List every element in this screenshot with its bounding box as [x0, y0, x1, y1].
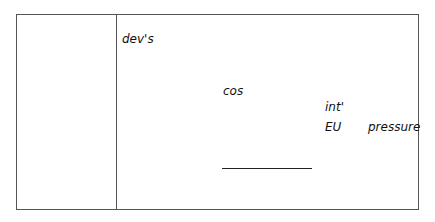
label-intl: int'	[325, 100, 344, 114]
label-devs: dev's	[122, 32, 154, 46]
column-divider	[116, 14, 117, 210]
outer-frame	[16, 14, 419, 210]
blank-underline	[222, 168, 312, 169]
label-cos: cos	[223, 84, 243, 98]
label-eu: EU	[325, 120, 341, 134]
label-pressure: pressure	[368, 120, 420, 134]
